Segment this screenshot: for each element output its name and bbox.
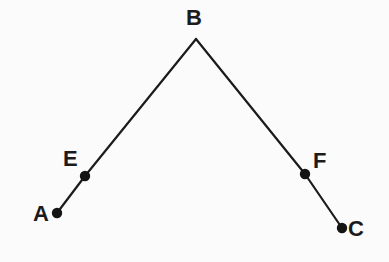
figure-canvas [0, 0, 389, 262]
point-marker-c [337, 223, 347, 233]
vertex-label-e: E [63, 148, 78, 170]
vertex-label-f: F [313, 150, 326, 172]
geometry-figure: A E B F C [0, 0, 389, 262]
vertex-label-c: C [348, 218, 364, 240]
point-marker-e [80, 171, 90, 181]
vertex-label-b: B [186, 7, 202, 29]
point-marker-f [300, 169, 310, 179]
vertex-label-a: A [33, 203, 49, 225]
point-marker-a [52, 208, 62, 218]
